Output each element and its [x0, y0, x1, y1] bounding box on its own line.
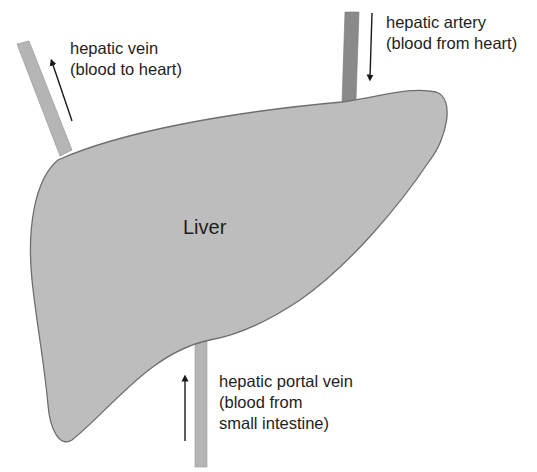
- hepatic-artery-label: hepatic artery (blood from heart): [386, 12, 517, 54]
- liver-label: Liver: [183, 215, 226, 239]
- portal-vein-name: hepatic portal vein: [219, 371, 353, 392]
- hepatic-portal-vein-label: hepatic portal vein (blood from small in…: [219, 371, 353, 434]
- hepatic-artery-vessel: [342, 12, 359, 102]
- hepatic-vein-name: hepatic vein: [70, 38, 182, 59]
- hepatic-vein-description: (blood to heart): [70, 59, 182, 80]
- hepatic-portal-vein-vessel: [195, 335, 207, 467]
- hepatic-artery-name: hepatic artery: [386, 12, 517, 33]
- hepatic-artery-description: (blood from heart): [386, 33, 517, 54]
- portal-vein-description-line-1: (blood from: [219, 392, 353, 413]
- hepatic-artery-flow-arrow-icon: [370, 13, 372, 78]
- portal-vein-description-line-2: small intestine): [219, 413, 353, 434]
- hepatic-vein-label: hepatic vein (blood to heart): [70, 38, 182, 80]
